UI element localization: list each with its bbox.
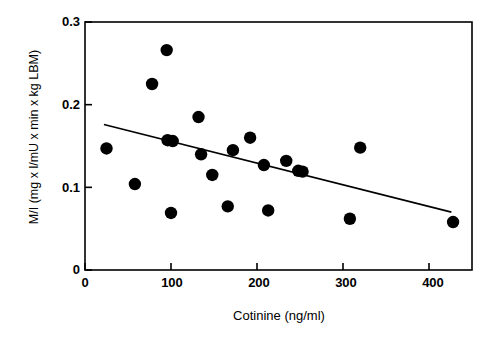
data-point-marker [129,178,141,190]
data-point-marker [227,144,239,156]
data-point-marker [262,204,274,216]
regression-line [104,125,451,213]
scatter-chart-figure: M/I (mg x l/mU x min x kg LBM) 0.3 0.2 0… [0,0,497,343]
data-point-marker [354,141,366,153]
data-point-marker [100,142,112,154]
data-point-marker [165,207,177,219]
data-point-marker [258,159,270,171]
data-point-marker [296,165,308,177]
data-point-marker [222,200,234,212]
axes-frame [85,22,472,270]
data-point-marker [192,111,204,123]
trend-line [104,125,451,213]
data-point-marker [244,132,256,144]
plot-area [0,0,497,343]
data-point-marker [195,148,207,160]
data-point-marker [206,169,218,181]
data-point-marker [280,155,292,167]
data-point-marker [167,135,179,147]
data-point-marker [344,213,356,225]
axis-ticks [85,22,429,270]
data-point-marker [161,44,173,56]
data-point-marker [146,78,158,90]
data-point-marker [447,216,459,228]
